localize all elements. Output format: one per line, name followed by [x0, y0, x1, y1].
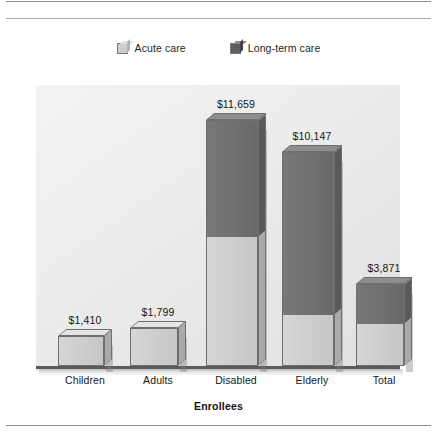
bar-top-face-elderly	[282, 145, 342, 152]
bar-side-face-adults	[178, 321, 186, 366]
legend-label-long-term-care: Long-term care	[248, 42, 321, 54]
bar-side-long-term-care	[335, 147, 341, 315]
segment-acute-care-children[interactable]	[59, 337, 103, 365]
bar-side-long-term-care	[259, 115, 265, 236]
segment-acute-care-adults[interactable]	[131, 329, 177, 365]
value-label-adults: $1,799	[130, 306, 186, 318]
value-label-total: $3,871	[356, 262, 412, 274]
category-label-children: Children	[48, 374, 122, 386]
bar-side-face-total	[404, 277, 412, 366]
segment-long-term-care-disabled[interactable]	[207, 121, 257, 237]
category-label-adults: Adults	[120, 374, 196, 386]
bar-top-face-total	[356, 277, 412, 284]
legend-item-acute-care[interactable]: Acute care	[117, 42, 186, 54]
bar-disabled[interactable]	[206, 120, 258, 366]
acute-care-swatch-icon	[117, 43, 128, 54]
bar-side-face-disabled	[258, 113, 266, 366]
value-label-children: $1,410	[58, 314, 112, 326]
category-label-disabled: Disabled	[196, 374, 276, 386]
bar-top-face-children	[58, 329, 112, 336]
bar-side-acute-care	[179, 323, 185, 364]
bar-side-acute-care	[105, 331, 111, 364]
bar-top-face-disabled	[206, 113, 266, 120]
legend-label-acute-care: Acute care	[135, 42, 186, 54]
chart-legend: Acute care Long-term care	[0, 37, 437, 59]
bar-side-acute-care	[259, 231, 265, 364]
bar-total[interactable]	[356, 284, 404, 366]
value-label-disabled: $11,659	[206, 98, 266, 110]
legend-item-long-term-care[interactable]: Long-term care	[230, 42, 321, 54]
bar-side-acute-care	[335, 309, 341, 364]
segment-long-term-care-elderly[interactable]	[283, 153, 333, 315]
chart-figure: Acute care Long-term care ChildrenAdults…	[0, 0, 437, 438]
value-label-elderly: $10,147	[282, 130, 342, 142]
bar-adults[interactable]	[130, 328, 178, 366]
category-label-elderly: Elderly	[272, 374, 352, 386]
bar-side-face-elderly	[334, 145, 342, 366]
bar-side-acute-care	[405, 318, 411, 364]
top-rule-inner	[6, 18, 431, 19]
bar-children[interactable]	[58, 336, 104, 366]
segment-acute-care-total[interactable]	[357, 324, 403, 365]
bottom-rule	[6, 425, 431, 426]
category-label-total: Total	[346, 374, 422, 386]
segment-acute-care-disabled[interactable]	[207, 237, 257, 365]
bar-top-face-adults	[130, 321, 186, 328]
x-axis-title: Enrollees	[0, 400, 437, 412]
segment-long-term-care-total[interactable]	[357, 285, 403, 324]
plot-area	[36, 85, 400, 371]
top-rule-outer	[6, 1, 431, 2]
segment-acute-care-elderly[interactable]	[283, 315, 333, 365]
bar-side-long-term-care	[405, 279, 411, 323]
long-term-care-swatch-icon	[230, 43, 241, 54]
bar-elderly[interactable]	[282, 152, 334, 366]
